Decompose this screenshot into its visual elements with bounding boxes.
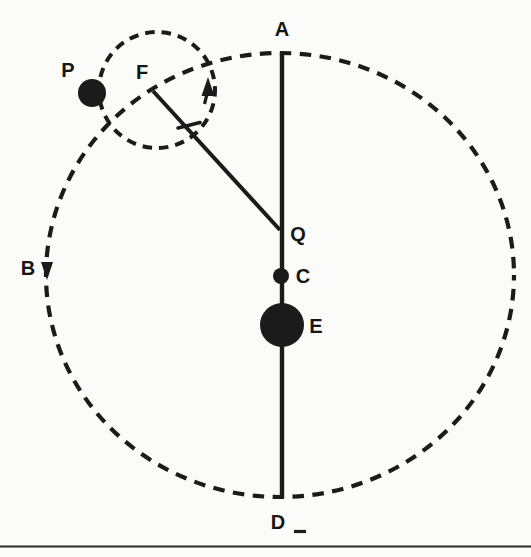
- label-P: P: [61, 60, 74, 80]
- label-B: B: [21, 258, 35, 278]
- label-A: A: [275, 19, 289, 39]
- small-epicycle-circle: [99, 32, 215, 148]
- point-P-dot: [78, 79, 106, 107]
- label-E: E: [309, 316, 322, 336]
- earth-E-dot: [260, 303, 304, 347]
- label-Q: Q: [290, 224, 306, 244]
- figure-canvas: A B C D E F P Q: [0, 0, 531, 557]
- small-circle-direction-arrow-icon: [202, 77, 215, 104]
- center-C-dot: [273, 268, 289, 284]
- label-C: C: [296, 266, 310, 286]
- label-F: F: [136, 62, 148, 82]
- line-F-to-Q: [153, 91, 280, 230]
- large-orbit-direction-arrow-icon: [41, 262, 53, 280]
- arrow-up-icon: [202, 77, 215, 96]
- label-D: D: [271, 512, 285, 532]
- orbit-diagram: [0, 0, 531, 557]
